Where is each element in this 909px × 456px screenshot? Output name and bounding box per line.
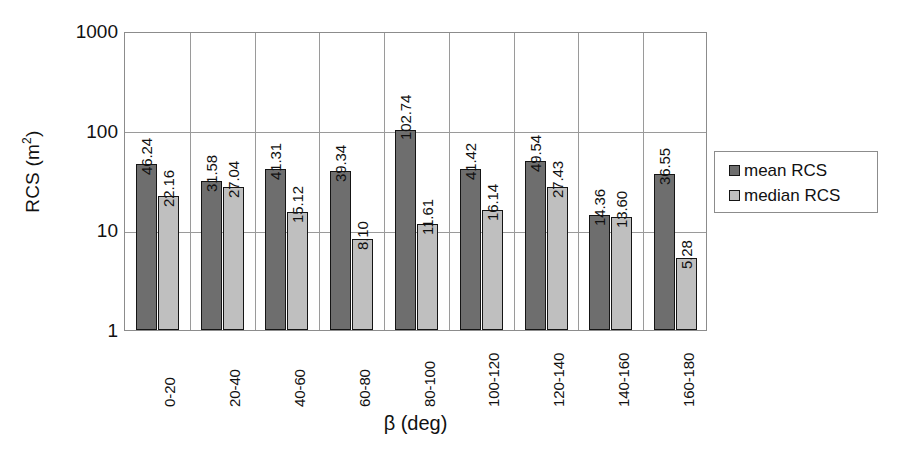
bar-mean-rcs	[589, 215, 610, 330]
bar-group: 41.4216.14	[449, 33, 514, 330]
bar-group: 31.5827.04	[190, 33, 255, 330]
legend-item[interactable]: median RCS	[729, 184, 877, 207]
y-axis-tick-labels: 1000100101	[44, 0, 118, 456]
x-tick-label: 80-100	[422, 361, 437, 407]
bar-mean-rcs	[265, 169, 286, 330]
bar-value-label: 13.60	[614, 191, 629, 228]
bar-value-label: 16.14	[485, 184, 500, 221]
bar-value-label: 31.58	[204, 155, 219, 192]
legend-item-label: mean RCS	[744, 162, 827, 179]
y-tick-label: 1	[48, 321, 118, 340]
bar-group: 39.348.10	[319, 33, 384, 330]
x-tick-label: 40-60	[292, 369, 307, 407]
bar-mean-rcs	[395, 130, 416, 331]
y-axis-title-text: RCS (m	[22, 144, 43, 213]
x-tick-label: 0-20	[162, 377, 177, 407]
legend-swatch-mean-icon	[729, 165, 740, 176]
x-tick-label: 60-80	[357, 369, 372, 407]
bar-median-rcs	[547, 187, 568, 330]
bar-value-label: 39.34	[333, 145, 348, 182]
bar-median-rcs	[223, 187, 244, 330]
bar-value-label: 41.31	[268, 143, 283, 180]
bar-value-label: 14.36	[592, 189, 607, 226]
bar-group: 102.7411.61	[384, 33, 449, 330]
bar-group: 46.2422.16	[125, 33, 190, 330]
bar-mean-rcs	[525, 161, 546, 330]
legend-item[interactable]: mean RCS	[729, 159, 877, 182]
legend-swatch-median-icon	[729, 190, 740, 201]
x-tick-label: 20-40	[227, 369, 242, 407]
bar-group: 36.555.28	[643, 33, 708, 330]
bar-median-rcs	[611, 217, 632, 330]
y-tick-label: 100	[48, 122, 118, 141]
bar-group: 49.5427.43	[514, 33, 579, 330]
bar-group: 41.3115.12	[255, 33, 320, 330]
bar-median-rcs	[158, 196, 179, 330]
y-tick-label: 1000	[48, 22, 118, 41]
bar-value-label: 49.54	[528, 135, 543, 172]
bar-median-rcs	[287, 212, 308, 330]
bar-value-label: 5.28	[679, 240, 694, 269]
bar-value-label: 102.74	[398, 95, 413, 140]
bar-value-label: 36.55	[657, 148, 672, 185]
bar-value-label: 22.16	[161, 170, 176, 207]
x-tick-label: 100-120	[486, 353, 501, 407]
bar-value-label: 11.61	[420, 199, 435, 235]
bar-value-label: 41.42	[463, 143, 478, 180]
bar-value-label: 27.04	[226, 161, 241, 198]
bar-mean-rcs	[654, 174, 675, 330]
rcs-bar-chart: RCS (m2) 1000100101 46.2422.1631.5827.04…	[0, 0, 909, 456]
bar-mean-rcs	[136, 164, 157, 330]
plot-area: 46.2422.1631.5827.0441.3115.1239.348.101…	[124, 32, 707, 331]
bar-value-label: 27.43	[550, 161, 565, 198]
bar-value-label: 8.10	[355, 222, 370, 251]
bar-median-rcs	[352, 239, 373, 330]
bar-group: 14.3613.60	[578, 33, 643, 330]
y-axis-title-superscript: 2	[20, 137, 34, 144]
x-tick-label: 160-180	[681, 353, 696, 407]
bar-mean-rcs	[201, 181, 222, 330]
legend-item-label: median RCS	[744, 187, 840, 204]
bar-mean-rcs	[460, 169, 481, 330]
bar-median-rcs	[482, 210, 503, 330]
chart-legend: mean RCSmedian RCS	[714, 151, 878, 213]
y-axis-title-paren: )	[22, 131, 43, 138]
bar-mean-rcs	[330, 171, 351, 330]
x-axis-title: β (deg)	[124, 412, 707, 435]
x-tick-label: 120-140	[551, 353, 566, 407]
bar-value-label: 46.24	[139, 138, 154, 175]
bar-median-rcs	[417, 224, 438, 330]
y-tick-label: 10	[48, 221, 118, 240]
y-axis-title: RCS (m2)	[20, 107, 43, 237]
bar-value-label: 15.12	[290, 186, 305, 223]
x-tick-label: 140-160	[616, 353, 631, 407]
